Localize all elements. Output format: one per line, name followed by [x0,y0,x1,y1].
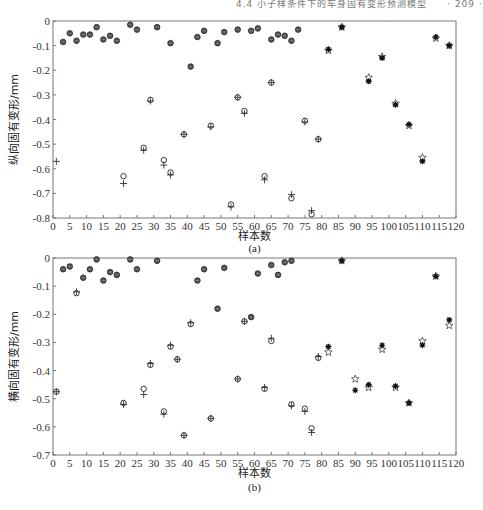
chart-panel-b: 0510152025303540455055606570758085909510… [7,252,465,494]
series-asterisk [325,24,452,164]
x-tick-label: 30 [148,457,160,469]
x-tick-label: 110 [414,220,431,232]
x-tick-label: 120 [448,457,465,469]
series-plus [53,288,322,439]
x-tick-label: 100 [381,457,398,469]
x-tick-label: 15 [98,220,110,232]
x-tick-label: 40 [182,220,194,232]
x-tick-label: 5 [67,457,73,469]
x-tick-label: 70 [283,457,295,469]
x-tick-label: 120 [448,220,465,232]
x-tick-label: 5 [67,220,73,232]
y-tick-label: -0.4 [33,114,51,126]
y-tick-label: -0.1 [33,280,50,292]
x-tick-label: 25 [131,220,143,232]
x-tick-label: 40 [182,457,194,469]
series-star [325,257,454,406]
x-tick-label: 100 [381,220,398,232]
x-tick-label: 105 [397,457,414,469]
series-star [325,23,454,161]
x-tick-label: 80 [316,220,328,232]
x-axis-title: 样本数 [238,466,271,480]
x-tick-label: 70 [283,220,295,232]
x-tick-label: 0 [50,220,56,232]
y-tick-label: -0.2 [33,64,50,76]
series-filled-circle [60,257,294,320]
x-tick-label: 115 [431,457,448,469]
y-tick-label: -0.8 [33,212,51,224]
x-tick-label: 90 [350,457,362,469]
x-tick-label: 50 [215,457,227,469]
y-tick-label: -0.1 [33,40,50,52]
x-tick-label: 85 [333,457,345,469]
x-tick-label: 20 [115,220,127,232]
series-plus [53,79,322,214]
x-tick-label: 90 [350,220,362,232]
panel-caption: (b) [248,481,261,494]
y-tick-label: -0.6 [33,163,51,175]
plot-frame [53,258,456,455]
y-tick-label: -0.3 [33,89,51,101]
y-axis-title: 纵向固有变形/mm [7,74,21,165]
chart-panel-a: 0510152025303540455055606570758085909510… [7,15,465,255]
x-tick-label: 50 [215,220,227,232]
x-tick-label: 95 [367,457,379,469]
x-axis-title: 样本数 [238,229,271,243]
x-tick-label: 80 [316,457,328,469]
y-tick-label: -0.5 [33,138,51,150]
x-tick-label: 20 [115,457,127,469]
x-tick-label: 85 [333,220,345,232]
x-tick-label: 115 [431,220,448,232]
x-tick-label: 25 [131,457,143,469]
x-tick-label: 35 [165,457,177,469]
series-filled-circle [60,22,301,69]
y-tick-label: 0 [45,252,51,264]
y-tick-label: -0.6 [33,421,51,433]
y-tick-label: -0.5 [33,393,51,405]
x-tick-label: 0 [50,457,56,469]
x-tick-label: 75 [299,220,311,232]
y-tick-label: -0.3 [33,336,51,348]
x-tick-label: 45 [199,457,211,469]
x-tick-label: 30 [148,220,160,232]
x-tick-label: 105 [397,220,414,232]
plot-frame [53,21,456,218]
y-tick-label: -0.4 [33,365,51,377]
series-circle [54,290,321,438]
y-tick-label: -0.2 [33,308,50,320]
panel-caption: (a) [248,242,261,255]
x-tick-label: 15 [98,457,110,469]
y-tick-label: 0 [45,15,51,27]
x-tick-label: 35 [165,220,177,232]
y-tick-label: -0.7 [33,449,51,461]
x-tick-label: 10 [81,457,93,469]
x-tick-label: 95 [367,220,379,232]
y-axis-title: 横向固有变形/mm [7,311,21,402]
y-tick-label: -0.7 [33,187,51,199]
x-tick-label: 10 [81,220,93,232]
x-tick-label: 45 [199,220,211,232]
series-circle [121,80,321,217]
x-tick-label: 110 [414,457,431,469]
x-tick-label: 75 [299,457,311,469]
